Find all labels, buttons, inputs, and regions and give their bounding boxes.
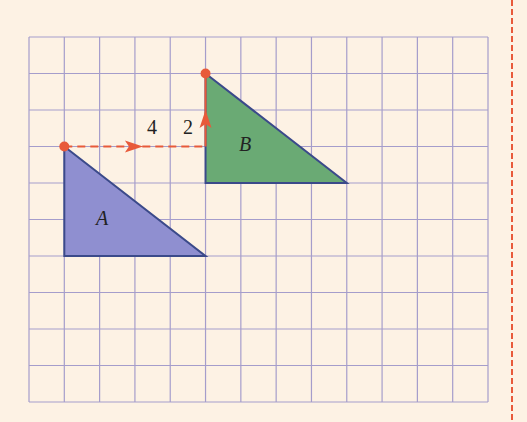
- vertical-shift-label: 2: [183, 116, 193, 138]
- vertex-dot-b: [201, 69, 211, 79]
- triangle-a-label: A: [94, 207, 109, 229]
- vertex-dot-a: [59, 142, 69, 152]
- triangle-b-label: B: [239, 133, 251, 155]
- horizontal-shift-label: 4: [147, 116, 157, 138]
- translation-diagram: 4 2 A B: [0, 0, 527, 422]
